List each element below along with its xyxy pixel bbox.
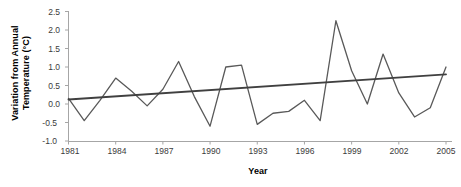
temperature-variation-chart: Variation from Annual Temperature (°C) 2…	[0, 0, 461, 187]
data-series-line	[69, 21, 447, 126]
plot-area	[0, 0, 461, 187]
linear-trend-line	[69, 74, 447, 99]
y-axis-ticks	[65, 12, 69, 142]
